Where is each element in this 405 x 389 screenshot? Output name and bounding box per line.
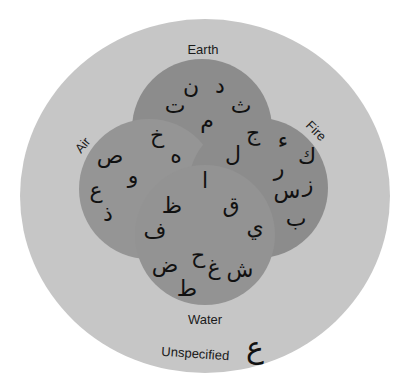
letter: د: [215, 73, 225, 98]
letter: ص: [97, 143, 124, 169]
letter: ح: [191, 243, 206, 268]
letter: ج: [246, 120, 261, 146]
letter: ه: [170, 143, 182, 168]
letter: ل: [225, 142, 241, 167]
letter: ظ: [162, 193, 182, 218]
letter: خ: [150, 123, 165, 148]
letter: ت: [165, 93, 186, 118]
letter: س: [274, 178, 301, 204]
letter: م: [200, 108, 214, 133]
letter: ط: [177, 276, 197, 301]
letter: غ: [207, 255, 220, 280]
letter: ء: [278, 128, 288, 153]
letter: ز: [302, 172, 314, 197]
letter: ض: [152, 252, 179, 278]
letter: ف: [144, 218, 167, 243]
letter: ب: [286, 206, 307, 231]
venn-diagram: Earth Air Fire Water Unspecified د ن ت ث…: [0, 0, 405, 389]
letter: ش: [227, 257, 254, 283]
letter: ع: [89, 178, 102, 203]
letter: ا: [202, 168, 208, 193]
letter: ث: [231, 93, 252, 118]
letter: ق: [222, 192, 239, 217]
water-label: Water: [188, 312, 223, 327]
letter: ع: [246, 330, 264, 365]
letter: ذ: [103, 201, 113, 226]
letter: ي: [246, 215, 263, 240]
letter: و: [127, 163, 139, 188]
letter: ك: [298, 144, 316, 169]
earth-label: Earth: [187, 42, 218, 57]
